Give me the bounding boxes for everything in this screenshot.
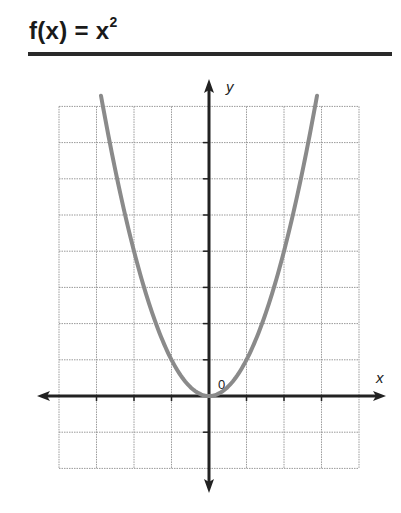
origin-label: 0 (218, 377, 225, 392)
axes (37, 79, 386, 493)
function-graph: x y 0 (0, 0, 401, 513)
x-axis-label: x (375, 369, 384, 386)
y-axis-label: y (225, 78, 235, 95)
